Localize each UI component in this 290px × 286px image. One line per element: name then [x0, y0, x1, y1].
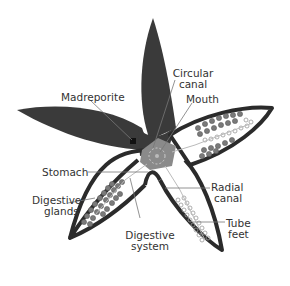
- label-digestive-system: Digestive system: [120, 230, 180, 252]
- label-digestive-glands: Digestive glands: [32, 195, 81, 217]
- mouth: [155, 154, 159, 158]
- label-tube-feet: Tube feet: [226, 218, 251, 240]
- label-radial-canal: Radial canal: [211, 182, 243, 204]
- label-circular-canal: Circular canal: [168, 68, 218, 90]
- label-madreporite: Madreporite: [61, 92, 125, 103]
- label-mouth: Mouth: [186, 94, 219, 105]
- label-stomach: Stomach: [42, 167, 88, 178]
